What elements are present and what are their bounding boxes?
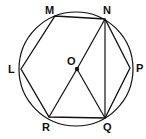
label-m: M — [45, 4, 54, 16]
segment-or — [49, 69, 77, 117]
label-n: N — [103, 4, 111, 16]
label-r: R — [42, 121, 50, 133]
segment-no — [77, 19, 105, 69]
diagram-canvas: M N P Q R L O — [0, 0, 146, 139]
segment-oq — [77, 69, 105, 118]
geometry-diagram: M N P Q R L O — [0, 0, 146, 139]
label-q: Q — [103, 121, 112, 133]
label-p: P — [136, 62, 143, 74]
hexagon-lmnpqr — [21, 16, 130, 118]
label-l: L — [8, 63, 15, 75]
center-point-o — [75, 67, 79, 71]
label-o: O — [67, 55, 76, 67]
